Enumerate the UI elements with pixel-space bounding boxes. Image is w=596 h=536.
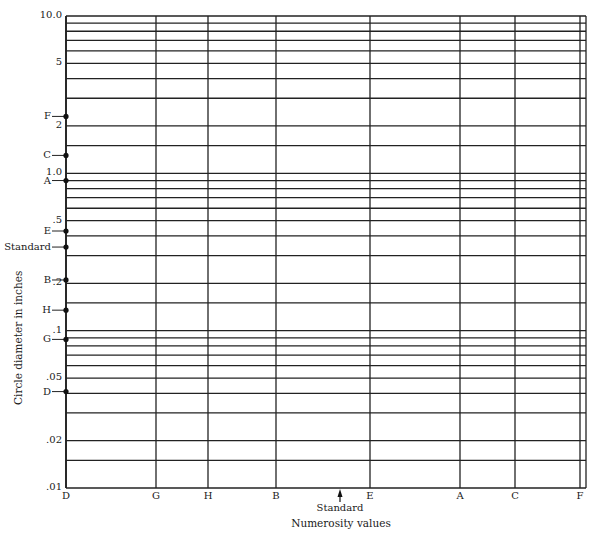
data-point (63, 244, 68, 249)
x-tick-label: D (62, 491, 70, 501)
data-point (63, 178, 68, 183)
data-point (63, 337, 68, 342)
log-scale-chart (0, 0, 596, 536)
data-point (63, 114, 68, 119)
point-label: C (43, 150, 51, 160)
y-tick-label: .1 (52, 325, 62, 335)
x-tick-label: F (577, 491, 584, 501)
y-tick-label: .01 (46, 482, 62, 492)
point-label: A (44, 176, 51, 186)
data-point (63, 308, 68, 313)
x-tick-label: E (366, 491, 373, 501)
point-label: H (42, 305, 51, 315)
y-tick-label: 2 (56, 120, 62, 130)
data-point (63, 389, 68, 394)
point-label: D (43, 387, 51, 397)
plot-area (0, 0, 596, 536)
data-point (63, 277, 68, 282)
x-tick-label: B (272, 491, 279, 501)
y-tick-label: 5 (56, 57, 62, 67)
y-tick-label: .02 (46, 435, 62, 445)
y-tick-label: 10.0 (40, 10, 62, 20)
point-label: F (44, 111, 51, 121)
x-tick-label: H (204, 491, 213, 501)
data-point (63, 153, 68, 158)
y-tick-label: .2 (52, 277, 62, 287)
y-tick-label: .5 (52, 215, 62, 225)
point-label: E (44, 226, 51, 236)
data-point (63, 228, 68, 233)
point-label: Standard (4, 242, 51, 252)
x-tick-label: A (456, 491, 463, 501)
x-tick-label: G (152, 491, 160, 501)
standard-label: Standard (317, 503, 364, 513)
x-axis-title: Numerosity values (291, 518, 391, 528)
point-label: G (43, 334, 51, 344)
y-axis-title: Circle diameter in inches (12, 271, 24, 405)
point-label: B (44, 275, 51, 285)
x-tick-label: C (511, 491, 519, 501)
y-tick-label: .05 (46, 372, 62, 382)
